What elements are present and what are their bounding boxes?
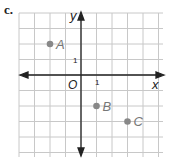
x-axis-left-arrow <box>20 72 28 78</box>
point-label-A: A <box>55 37 65 52</box>
point-A <box>47 41 54 48</box>
origin-label: O <box>68 78 77 92</box>
point-label-C: C <box>134 114 144 129</box>
x-tick-label: 1 <box>95 78 100 87</box>
coordinate-plane: x y O 1 1 ABC <box>0 0 169 163</box>
y-axis-down-arrow <box>78 148 84 156</box>
axes <box>20 12 164 156</box>
x-axis-label: x <box>151 77 159 92</box>
grid-lines <box>19 13 163 157</box>
y-tick-label: 1 <box>73 56 78 65</box>
point-B <box>93 103 100 110</box>
point-C <box>124 118 131 125</box>
y-axis-label: y <box>69 8 78 23</box>
point-label-B: B <box>103 99 112 114</box>
